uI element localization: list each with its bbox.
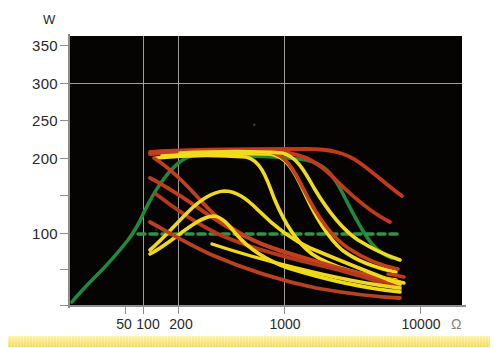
- y-tick-label-100: 100: [12, 226, 58, 241]
- y-tick-label-350: 350: [12, 38, 58, 53]
- x-tick-label-10000: 10000: [402, 316, 441, 332]
- x-tick-mark-10000: [420, 306, 421, 314]
- x-axis-line: [68, 305, 466, 307]
- y-axis-line: [68, 34, 70, 308]
- x-tick-label-50: 50: [116, 316, 132, 332]
- chart-figure-root: W 350 300 250 200 100: [0, 0, 498, 348]
- plot-area: [70, 36, 462, 305]
- y-axis-unit-label: W: [43, 12, 55, 27]
- x-tick-mark-200: [178, 306, 179, 314]
- banner-texture: [8, 336, 490, 347]
- x-tick-label-100: 100: [136, 316, 159, 332]
- curve-group: [70, 36, 462, 305]
- curve-red-early-rolloff: [154, 158, 400, 286]
- x-tick-mark-50: [125, 306, 126, 314]
- y-tick-label-200: 200: [12, 151, 58, 166]
- y-tick-label-300: 300: [12, 76, 58, 91]
- x-tick-label-1000: 1000: [269, 316, 300, 332]
- x-tick-label-200: 200: [169, 316, 192, 332]
- x-axis-unit-label: Ω: [451, 316, 461, 332]
- page-bottom-banner: [8, 336, 490, 347]
- x-tick-mark-100: [143, 306, 144, 314]
- y-tick-label-250: 250: [12, 113, 58, 128]
- curve-green-rising-trace: [72, 154, 236, 302]
- curve-terminus-bundle-red-a: [388, 274, 404, 277]
- figure-canvas: W 350 300 250 200 100: [0, 0, 498, 348]
- x-tick-mark-1000: [284, 306, 285, 314]
